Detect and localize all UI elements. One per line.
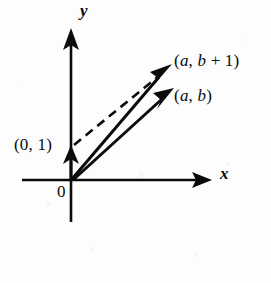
- plus-one: + 1: [206, 51, 233, 70]
- variable-b: b: [197, 51, 206, 70]
- vector-v-plus-j-line: [72, 77, 159, 179]
- paren-close: ): [206, 86, 212, 105]
- vector-addition-diagram: y x 0 (a, b + 1) (a, b) (0, 1): [0, 0, 271, 283]
- point-label-a-b-plus-1: (a, b + 1): [174, 52, 239, 69]
- point-label-a-b: (a, b): [174, 87, 212, 104]
- variable-a: a: [180, 86, 189, 105]
- variable-a: a: [180, 51, 189, 70]
- origin-label: 0: [57, 183, 66, 200]
- vectors-group: [63, 64, 174, 180]
- y-axis-label: y: [80, 2, 88, 19]
- x-axis-label: x: [220, 165, 229, 182]
- vector-translated-v-line: [74, 75, 160, 145]
- vector-v-line: [73, 99, 162, 180]
- variable-b: b: [197, 86, 206, 105]
- point-label-0-1: (0, 1): [14, 136, 52, 153]
- paren-close: ): [234, 51, 240, 70]
